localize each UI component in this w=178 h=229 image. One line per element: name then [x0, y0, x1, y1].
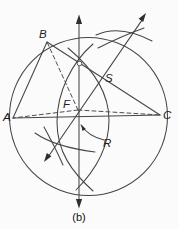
construction-arc-lower-left-1: [35, 133, 95, 152]
intersection-marker: [77, 61, 82, 66]
point-label-s: S: [105, 72, 113, 84]
geometry-diagram-canvas: A B C F S R (b): [0, 0, 178, 229]
construction-figure: A B C F S R (b): [0, 0, 178, 229]
point-label-c: C: [163, 109, 172, 121]
figure-caption: (b): [72, 211, 85, 223]
point-label-f: F: [63, 98, 71, 110]
point-label-b: B: [39, 28, 47, 40]
point-label-a: A: [2, 111, 11, 123]
dashed-radius-fc: [78, 110, 160, 115]
radius-leader-line: [81, 125, 104, 140]
arrowhead-upper-right-icon: [139, 13, 146, 22]
arrowhead-down-icon: [76, 199, 82, 209]
arrowhead-up-icon: [76, 15, 82, 25]
point-label-r: R: [103, 137, 111, 149]
